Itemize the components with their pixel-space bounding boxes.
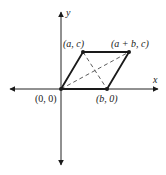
vertex-apb-c: [127, 50, 131, 54]
vertex-origin: [59, 87, 63, 91]
label-origin: (0, 0): [35, 93, 57, 105]
label-a-c: (a, c): [63, 38, 85, 50]
x-axis-label: x: [152, 74, 158, 85]
vertex-b-0: [105, 87, 109, 91]
label-b-0: (b, 0): [96, 93, 118, 105]
coordinate-plane: x y (0, 0) (a, c) (a + b, c) (b, 0): [0, 0, 166, 175]
y-axis-label: y: [65, 7, 71, 18]
diagonal-a-c-to-b-0: [83, 52, 107, 89]
vertex-a-c: [81, 50, 85, 54]
label-apb-c: (a + b, c): [111, 38, 150, 50]
